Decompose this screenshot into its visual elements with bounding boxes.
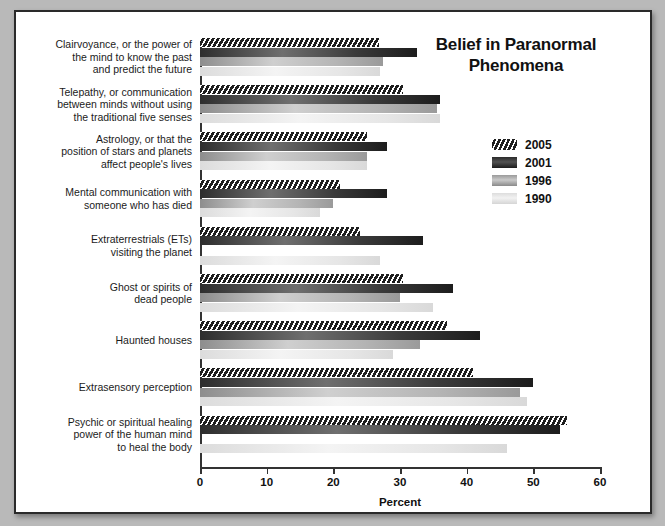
- bar-2005: [200, 227, 360, 236]
- bar-1996: [200, 388, 520, 397]
- category-label-line: Psychic or spiritual healing: [16, 416, 192, 429]
- category-label: Psychic or spiritual healingpower of the…: [16, 416, 200, 454]
- x-axis-title: Percent: [200, 496, 600, 508]
- bar-2005: [200, 85, 403, 94]
- x-tick: [333, 467, 335, 474]
- bar-1990: [200, 114, 440, 123]
- x-tick: [467, 467, 469, 474]
- bar-2005: [200, 321, 447, 330]
- bar-1996: [200, 293, 400, 302]
- category-label: Ghost or spirits ofdead people: [16, 281, 200, 306]
- x-tick-label: 0: [197, 476, 203, 488]
- bar-2005: [200, 274, 403, 283]
- category-label-line: Extrasensory perception: [16, 381, 192, 394]
- category-label-line: the traditional five senses: [16, 111, 192, 124]
- x-tick-label: 40: [460, 476, 473, 488]
- bars-container: [200, 38, 600, 462]
- bar-2001: [200, 284, 453, 293]
- bar-1990: [200, 161, 367, 170]
- x-tick-label: 50: [527, 476, 540, 488]
- category-label: Extraterrestrials (ETs)visiting the plan…: [16, 233, 200, 258]
- bar-2001: [200, 378, 533, 387]
- category-label-line: to heal the body: [16, 441, 192, 454]
- x-tick: [200, 467, 202, 474]
- category-label-line: Extraterrestrials (ETs): [16, 233, 192, 246]
- chart-figure: Belief in Paranormal Phenomena 2005 2001…: [14, 10, 652, 514]
- bar-2001: [200, 331, 480, 340]
- category-label: Astrology, or that theposition of stars …: [16, 133, 200, 171]
- category-label-line: Ghost or spirits of: [16, 281, 192, 294]
- bar-1990: [200, 256, 380, 265]
- category-label: Clairvoyance, or the power ofthe mind to…: [16, 38, 200, 76]
- category-label-line: Clairvoyance, or the power of: [16, 38, 192, 51]
- bar-2005: [200, 180, 340, 189]
- bar-1996: [200, 57, 383, 66]
- category-label-line: someone who has died: [16, 199, 192, 212]
- category-label-line: Telepathy, or communication: [16, 86, 192, 99]
- category-label-line: the mind to know the past: [16, 51, 192, 64]
- x-tick: [533, 467, 535, 474]
- x-tick-label: 30: [394, 476, 407, 488]
- bar-1990: [200, 350, 393, 359]
- category-label: Extrasensory perception: [16, 381, 200, 394]
- category-label-line: between minds without using: [16, 98, 192, 111]
- bar-2005: [200, 132, 367, 141]
- bar-2005: [200, 416, 567, 425]
- bar-1990: [200, 303, 433, 312]
- plot-area: Clairvoyance, or the power ofthe mind to…: [16, 12, 650, 512]
- bar-1996: [200, 152, 367, 161]
- x-tick-label: 60: [594, 476, 607, 488]
- bar-2005: [200, 368, 473, 377]
- x-tick-label: 10: [260, 476, 273, 488]
- bar-1996: [200, 104, 437, 113]
- x-tick: [400, 467, 402, 474]
- bar-2001: [200, 48, 417, 57]
- bar-1990: [200, 208, 320, 217]
- category-label-line: Mental communication with: [16, 186, 192, 199]
- category-label: Mental communication withsomeone who has…: [16, 186, 200, 211]
- bar-1990: [200, 67, 380, 76]
- category-label-line: power of the human mind: [16, 428, 192, 441]
- category-label-line: position of stars and planets: [16, 145, 192, 158]
- bar-1990: [200, 397, 527, 406]
- category-label-line: visiting the planet: [16, 246, 192, 259]
- bar-1996: [200, 340, 420, 349]
- bar-2001: [200, 95, 440, 104]
- category-label-line: Astrology, or that the: [16, 133, 192, 146]
- x-tick: [600, 467, 602, 474]
- bar-1990: [200, 444, 507, 453]
- category-label: Haunted houses: [16, 334, 200, 347]
- category-label-line: affect people's lives: [16, 158, 192, 171]
- category-label-line: Haunted houses: [16, 334, 192, 347]
- bar-1996: [200, 199, 333, 208]
- bar-2001: [200, 425, 560, 434]
- category-label-line: and predict the future: [16, 63, 192, 76]
- bar-2005: [200, 38, 379, 47]
- bar-2001: [200, 142, 387, 151]
- bar-2001: [200, 189, 387, 198]
- bar-2001: [200, 236, 423, 245]
- x-tick: [267, 467, 269, 474]
- category-label: Telepathy, or communicationbetween minds…: [16, 86, 200, 124]
- category-label-line: dead people: [16, 293, 192, 306]
- x-tick-label: 20: [327, 476, 340, 488]
